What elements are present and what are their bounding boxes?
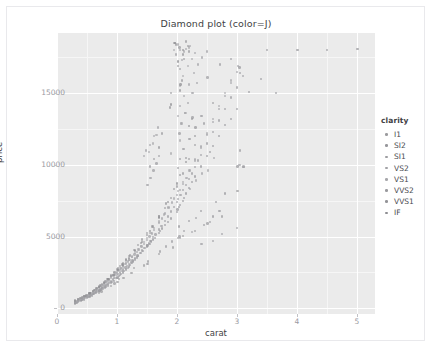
y-axis-tick-mark — [54, 308, 57, 309]
y-axis-tick-label: 0 — [60, 303, 65, 312]
data-point — [149, 240, 151, 242]
data-point — [136, 254, 138, 256]
data-point — [212, 240, 214, 242]
data-point — [224, 108, 226, 110]
data-point — [179, 158, 181, 160]
legend-key-dot-icon — [381, 163, 392, 174]
x-axis-tick-label: 4 — [282, 317, 312, 326]
x-axis-tick-mark — [357, 314, 358, 317]
data-point — [212, 102, 214, 104]
data-point — [224, 192, 226, 194]
data-point — [219, 63, 221, 65]
data-point — [236, 86, 238, 88]
data-point — [155, 134, 157, 136]
data-point — [171, 240, 173, 242]
data-point — [158, 217, 160, 219]
legend-item-si2[interactable]: SI2 — [381, 140, 433, 151]
data-point — [183, 197, 185, 199]
data-point — [147, 263, 149, 265]
data-point — [187, 102, 189, 104]
data-point — [173, 188, 175, 190]
data-point — [112, 274, 114, 276]
data-point — [200, 154, 202, 156]
data-point — [200, 243, 202, 245]
data-point — [176, 185, 178, 187]
legend-key-dot-icon — [381, 185, 392, 196]
legend-item-vvs1[interactable]: VVS1 — [381, 196, 433, 207]
data-point — [177, 65, 179, 67]
legend-item-label: SI1 — [394, 152, 406, 161]
grid-line-horizontal — [57, 93, 375, 94]
legend-item-i1[interactable]: I1 — [381, 129, 433, 140]
data-point — [188, 125, 190, 127]
data-point — [167, 215, 169, 217]
y-axis-label: price — [0, 142, 4, 163]
data-point — [191, 172, 193, 174]
data-point — [158, 232, 160, 234]
legend-item-vs2[interactable]: VS2 — [381, 163, 433, 174]
data-point — [176, 182, 178, 184]
data-point — [187, 45, 189, 47]
legend-item-label: I1 — [394, 130, 401, 139]
data-point — [183, 230, 185, 232]
data-point — [143, 247, 145, 249]
data-point — [218, 108, 220, 110]
data-point — [194, 135, 196, 137]
data-point — [181, 122, 183, 124]
data-point — [242, 165, 244, 167]
legend-item-if[interactable]: IF — [381, 207, 433, 218]
data-point — [158, 155, 160, 157]
data-point — [182, 53, 184, 55]
data-point — [218, 210, 220, 212]
grid-line-horizontal — [57, 237, 375, 238]
x-axis-tick-label: 1 — [102, 317, 132, 326]
x-axis-tick-mark — [117, 314, 118, 317]
data-point — [212, 121, 214, 123]
data-point — [146, 184, 148, 186]
data-point — [194, 175, 196, 177]
data-point — [197, 63, 199, 65]
legend-item-label: VS2 — [394, 164, 409, 173]
data-point — [153, 229, 155, 231]
data-point — [185, 161, 187, 163]
y-axis-tick-mark — [54, 93, 57, 94]
legend-item-vs1[interactable]: VS1 — [381, 174, 433, 185]
data-point — [194, 166, 196, 168]
data-point — [212, 118, 214, 120]
legend-key-dot-icon — [381, 140, 392, 151]
x-axis-tick-mark — [237, 314, 238, 317]
y-axis-tick-mark — [54, 237, 57, 238]
data-point — [170, 217, 172, 219]
data-point — [110, 285, 112, 287]
data-point — [179, 204, 181, 206]
x-axis-tick-label: 0 — [42, 317, 72, 326]
legend-item-vvs2[interactable]: VVS2 — [381, 185, 433, 196]
chart-screenshot: Diamond plot (color=J) price carat clari… — [0, 0, 436, 354]
data-point — [179, 237, 181, 239]
legend-item-label: VS1 — [394, 175, 409, 184]
legend-key-dot-icon — [381, 151, 392, 162]
data-point — [182, 75, 184, 77]
data-point — [173, 197, 175, 199]
data-point — [184, 112, 186, 114]
x-axis-tick-mark — [297, 314, 298, 317]
data-point — [107, 278, 109, 280]
data-point — [206, 50, 208, 52]
legend-title: clarity — [381, 116, 433, 125]
legend-item-si1[interactable]: SI1 — [381, 151, 433, 162]
data-point — [158, 253, 160, 255]
data-point — [185, 157, 187, 159]
data-point — [185, 48, 187, 50]
data-point — [188, 178, 190, 180]
x-axis-tick-label: 2 — [162, 317, 192, 326]
data-point — [191, 118, 193, 120]
data-point — [207, 169, 209, 171]
data-point — [158, 228, 160, 230]
legend-item-label: VVS1 — [394, 197, 414, 206]
data-point — [188, 220, 190, 222]
data-point — [187, 65, 189, 67]
legend-item-label: SI2 — [394, 141, 406, 150]
data-point — [131, 255, 133, 257]
data-point — [230, 96, 232, 98]
data-point — [195, 179, 197, 181]
